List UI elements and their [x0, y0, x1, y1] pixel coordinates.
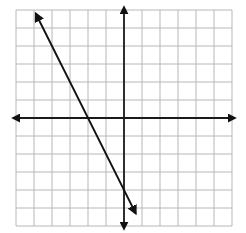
- plotted-line: [36, 14, 136, 214]
- coordinate-plane: [0, 0, 246, 233]
- axes: [13, 7, 235, 229]
- line-series: [36, 14, 136, 214]
